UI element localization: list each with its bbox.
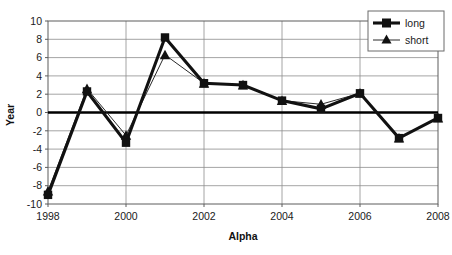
legend-label-long: long xyxy=(405,17,425,29)
y-tick-label: -4 xyxy=(33,143,42,155)
chart-legend: long short xyxy=(368,11,444,51)
series-long-line xyxy=(48,37,438,194)
x-tick-label: 2000 xyxy=(114,210,138,222)
y-tick-label: -2 xyxy=(33,125,42,137)
x-tick-label: 2008 xyxy=(426,210,450,222)
y-tick-label: 2 xyxy=(36,88,42,100)
marker-long xyxy=(161,33,169,41)
series-long-markers xyxy=(44,33,442,199)
legend-label-short: short xyxy=(405,34,428,46)
marker-long xyxy=(200,79,208,87)
x-tick-label: 2004 xyxy=(270,210,294,222)
y-tick-label: 6 xyxy=(36,51,42,63)
x-axis-tick-labels: 199820002002200420062008 xyxy=(36,210,450,222)
x-tick-label: 1998 xyxy=(36,210,60,222)
y-tick-label: 8 xyxy=(36,33,42,45)
y-tick-label: 4 xyxy=(36,70,42,82)
marker-long xyxy=(356,89,364,97)
y-axis-tick-labels: 1086420-2-4-6-8-10 xyxy=(27,15,42,210)
y-tick-label: 0 xyxy=(36,106,42,118)
chart-canvas: 1086420-2-4-6-8-10 199820002002200420062… xyxy=(0,0,452,255)
marker-long xyxy=(278,96,286,104)
marker-long xyxy=(434,114,442,122)
x-tick-label: 2002 xyxy=(192,210,216,222)
legend-marker-square xyxy=(382,19,391,28)
y-tick-label: 10 xyxy=(30,15,42,27)
marker-long xyxy=(395,134,403,142)
y-tick-label: -8 xyxy=(33,179,42,191)
x-tick-label: 2006 xyxy=(348,210,372,222)
y-axis-title: Year xyxy=(4,104,16,126)
y-tick-label: -6 xyxy=(33,161,42,173)
marker-long xyxy=(122,138,130,146)
line-chart: 1086420-2-4-6-8-10 199820002002200420062… xyxy=(0,0,452,255)
marker-long xyxy=(317,105,325,113)
marker-long xyxy=(83,87,91,95)
marker-long xyxy=(239,81,247,89)
y-tick-label: -10 xyxy=(27,198,42,210)
series-short-line xyxy=(48,55,438,191)
x-axis-title: Alpha xyxy=(228,230,257,242)
marker-long xyxy=(44,191,52,199)
series-short-markers xyxy=(43,50,443,196)
